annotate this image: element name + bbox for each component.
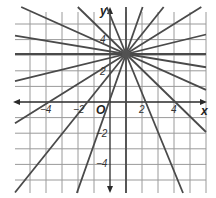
y-tick-label: 4 [100,34,106,45]
common-point [122,50,130,58]
family-line-line-slope-neg-1/2 [21,7,206,90]
x-tick-label: 2 [138,104,145,115]
y-tick-label: −4 [96,158,108,169]
y-tick-label: −2 [96,128,108,139]
coordinate-plane: x y O −4 −2 2 4 4 2 −2 −4 [0,0,216,198]
y-axis-down-arrow-icon [107,186,113,193]
x-tick-label: −4 [40,104,52,115]
origin-label: O [96,103,106,117]
family-line-line-slope-neg-2.5 [107,7,183,193]
x-tick-label: 4 [171,104,177,115]
x-axis-label: x [200,104,209,118]
x-axis-left-arrow-icon [13,99,20,105]
y-axis-label: y [99,4,108,18]
y-tick-label: 2 [99,66,106,77]
x-tick-label: −2 [73,104,85,115]
